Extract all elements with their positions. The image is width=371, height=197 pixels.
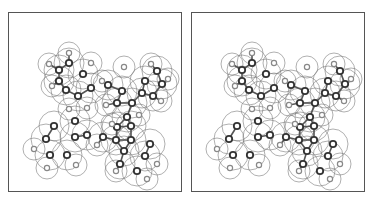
heavy-atom <box>80 71 86 77</box>
heavy-atom <box>325 153 331 159</box>
heavy-atom <box>72 118 78 124</box>
heavy-atom <box>150 93 156 99</box>
light-atom <box>113 168 118 173</box>
heavy-atom <box>43 136 49 142</box>
heavy-atom <box>226 136 232 142</box>
heavy-atom <box>312 100 318 106</box>
light-atom <box>136 112 141 117</box>
light-atom <box>88 60 93 65</box>
heavy-atom <box>311 123 317 129</box>
light-atom <box>103 102 108 107</box>
heavy-atom <box>51 123 57 129</box>
heavy-atom <box>105 82 111 88</box>
heavy-atom <box>142 78 148 84</box>
light-atom <box>282 78 287 83</box>
light-atom <box>44 165 49 170</box>
light-atom <box>214 146 219 151</box>
light-atom <box>165 76 170 81</box>
heavy-atom <box>271 85 277 91</box>
light-atom <box>99 78 104 83</box>
light-atom <box>319 112 324 117</box>
heavy-atom <box>300 161 306 167</box>
heavy-atom <box>128 123 134 129</box>
heavy-atom <box>128 137 134 143</box>
heavy-atom <box>113 137 119 143</box>
heavy-atom <box>247 152 253 158</box>
heavy-atom <box>88 85 94 91</box>
light-atom <box>249 50 254 55</box>
molecule-diagram-right <box>192 13 366 193</box>
heavy-atom <box>239 67 245 73</box>
light-atom <box>148 61 153 66</box>
light-atom <box>267 105 272 110</box>
light-atom <box>337 161 342 166</box>
heavy-atom <box>255 134 261 140</box>
light-atom <box>277 142 282 147</box>
heavy-atom <box>124 114 130 120</box>
heavy-atom <box>147 141 153 147</box>
heavy-atom <box>311 137 317 143</box>
heavy-atom <box>304 148 310 154</box>
heavy-atom <box>121 148 127 154</box>
heavy-atom <box>129 100 135 106</box>
heavy-atom <box>63 87 69 93</box>
heavy-atom <box>337 68 343 74</box>
heavy-atom <box>72 134 78 140</box>
heavy-atom <box>297 100 303 106</box>
light-atom <box>109 121 114 126</box>
light-atom <box>66 106 71 111</box>
light-atom <box>331 61 336 66</box>
right-panel <box>191 12 365 192</box>
heavy-atom <box>296 137 302 143</box>
light-atom <box>286 102 291 107</box>
light-atom <box>256 162 261 167</box>
heavy-atom <box>255 118 261 124</box>
heavy-atom <box>317 168 323 174</box>
molecule-diagram-left <box>9 13 183 193</box>
light-atom <box>327 176 332 181</box>
heavy-atom <box>288 82 294 88</box>
light-atom <box>227 165 232 170</box>
heavy-atom <box>119 88 125 94</box>
heavy-atom <box>154 68 160 74</box>
heavy-atom <box>100 134 106 140</box>
heavy-atom <box>283 134 289 140</box>
light-atom <box>348 76 353 81</box>
light-atom <box>249 106 254 111</box>
light-atom <box>31 146 36 151</box>
light-atom <box>232 83 237 88</box>
heavy-atom <box>263 71 269 77</box>
heavy-atom <box>342 81 348 87</box>
heavy-atom <box>307 114 313 120</box>
heavy-atom <box>75 93 81 99</box>
heavy-atom <box>64 152 70 158</box>
light-atom <box>154 161 159 166</box>
light-atom <box>84 105 89 110</box>
light-atom <box>296 168 301 173</box>
light-atom <box>292 121 297 126</box>
heavy-atom <box>142 153 148 159</box>
heavy-atom <box>114 100 120 106</box>
light-atom <box>144 176 149 181</box>
light-atom <box>158 98 163 103</box>
light-atom <box>73 162 78 167</box>
heavy-atom <box>322 90 328 96</box>
heavy-atom <box>249 60 255 66</box>
heavy-atom <box>230 152 236 158</box>
light-atom <box>271 60 276 65</box>
heavy-atom <box>134 168 140 174</box>
heavy-atom <box>246 87 252 93</box>
heavy-atom <box>66 60 72 66</box>
heavy-atom <box>159 81 165 87</box>
heavy-atom <box>56 78 62 84</box>
heavy-atom <box>234 123 240 129</box>
light-atom <box>94 142 99 147</box>
heavy-atom <box>302 88 308 94</box>
heavy-atom <box>84 132 90 138</box>
heavy-atom <box>47 152 53 158</box>
heavy-atom <box>325 78 331 84</box>
light-atom <box>229 61 234 66</box>
heavy-atom <box>330 141 336 147</box>
light-atom <box>49 83 54 88</box>
light-atom <box>341 98 346 103</box>
